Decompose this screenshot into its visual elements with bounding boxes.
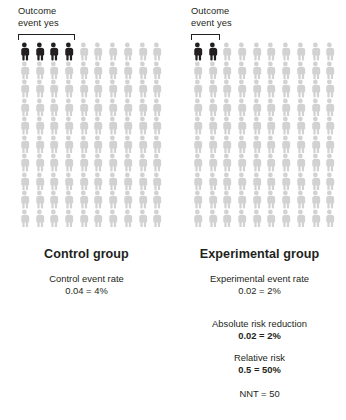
person-no-event-icon (293, 61, 308, 80)
person-no-event-icon (46, 190, 61, 209)
person-no-event-icon (120, 98, 135, 117)
experimental-outcome-label-line1: Outcome (191, 6, 232, 18)
experimental-outcome-label-line2: event yes (191, 18, 232, 30)
absolute-risk-reduction-stat: Absolute risk reduction 0.02 = 2% (173, 318, 346, 342)
experimental-group-heading: Experimental group (173, 247, 346, 261)
person-no-event-icon (278, 153, 293, 172)
person-no-event-icon (76, 153, 91, 172)
person-no-event-icon (61, 153, 76, 172)
person-no-event-icon (61, 190, 76, 209)
person-no-event-icon (149, 172, 164, 191)
person-no-event-icon (32, 135, 47, 154)
person-no-event-icon (322, 209, 337, 228)
person-no-event-icon (293, 98, 308, 117)
person-no-event-icon (205, 79, 220, 98)
person-no-event-icon (17, 190, 32, 209)
person-no-event-icon (17, 98, 32, 117)
person-no-event-icon (32, 172, 47, 191)
experimental-pictogram-grid (190, 42, 337, 227)
person-no-event-icon (322, 79, 337, 98)
person-no-event-icon (149, 116, 164, 135)
person-no-event-icon (17, 153, 32, 172)
person-no-event-icon (308, 79, 323, 98)
person-no-event-icon (17, 135, 32, 154)
person-no-event-icon (308, 42, 323, 61)
person-no-event-icon (308, 209, 323, 228)
person-no-event-icon (90, 79, 105, 98)
person-no-event-icon (90, 116, 105, 135)
person-no-event-icon (17, 79, 32, 98)
person-no-event-icon (205, 190, 220, 209)
person-no-event-icon (76, 172, 91, 191)
control-event-bracket (18, 34, 75, 40)
person-no-event-icon (249, 98, 264, 117)
person-no-event-icon (249, 79, 264, 98)
person-no-event-icon (263, 153, 278, 172)
person-no-event-icon (46, 61, 61, 80)
person-no-event-icon (219, 116, 234, 135)
person-no-event-icon (205, 153, 220, 172)
person-no-event-icon (293, 209, 308, 228)
person-no-event-icon (135, 153, 150, 172)
person-no-event-icon (219, 172, 234, 191)
person-no-event-icon (135, 98, 150, 117)
person-no-event-icon (190, 190, 205, 209)
person-no-event-icon (219, 42, 234, 61)
person-no-event-icon (263, 209, 278, 228)
person-no-event-icon (120, 172, 135, 191)
person-no-event-icon (308, 61, 323, 80)
person-no-event-icon (293, 190, 308, 209)
person-no-event-icon (205, 172, 220, 191)
person-no-event-icon (205, 135, 220, 154)
control-event-rate-value: 0.04 = 4% (0, 285, 173, 297)
person-no-event-icon (76, 190, 91, 209)
person-no-event-icon (105, 98, 120, 117)
person-no-event-icon (219, 209, 234, 228)
person-no-event-icon (76, 209, 91, 228)
experimental-event-rate-value: 0.02 = 2% (173, 285, 346, 297)
person-no-event-icon (61, 116, 76, 135)
person-no-event-icon (90, 61, 105, 80)
experimental-event-bracket (191, 34, 220, 40)
person-event-icon (190, 42, 205, 61)
person-no-event-icon (90, 190, 105, 209)
person-no-event-icon (322, 153, 337, 172)
person-no-event-icon (90, 98, 105, 117)
person-no-event-icon (120, 209, 135, 228)
control-event-rate-label: Control event rate (0, 273, 173, 285)
person-no-event-icon (120, 116, 135, 135)
person-no-event-icon (205, 209, 220, 228)
person-no-event-icon (278, 79, 293, 98)
person-no-event-icon (90, 153, 105, 172)
person-no-event-icon (205, 98, 220, 117)
person-no-event-icon (322, 172, 337, 191)
control-group-heading: Control group (0, 247, 173, 261)
person-no-event-icon (120, 153, 135, 172)
person-no-event-icon (234, 61, 249, 80)
person-no-event-icon (278, 98, 293, 117)
person-no-event-icon (46, 209, 61, 228)
control-group-panel: Outcome event yes Control group Control … (0, 0, 173, 420)
person-no-event-icon (263, 61, 278, 80)
experimental-group-panel: Outcome event yes Experimental group Exp… (173, 0, 346, 420)
person-no-event-icon (105, 61, 120, 80)
person-no-event-icon (190, 209, 205, 228)
person-no-event-icon (46, 98, 61, 117)
person-no-event-icon (135, 135, 150, 154)
experimental-outcome-annotation: Outcome event yes (191, 6, 232, 29)
person-no-event-icon (61, 172, 76, 191)
person-no-event-icon (190, 61, 205, 80)
person-no-event-icon (135, 209, 150, 228)
person-no-event-icon (308, 172, 323, 191)
person-no-event-icon (293, 116, 308, 135)
person-no-event-icon (293, 172, 308, 191)
person-no-event-icon (234, 190, 249, 209)
person-no-event-icon (120, 135, 135, 154)
person-no-event-icon (190, 98, 205, 117)
person-no-event-icon (105, 190, 120, 209)
person-no-event-icon (32, 79, 47, 98)
person-no-event-icon (90, 135, 105, 154)
person-no-event-icon (219, 61, 234, 80)
person-no-event-icon (135, 42, 150, 61)
person-no-event-icon (249, 42, 264, 61)
